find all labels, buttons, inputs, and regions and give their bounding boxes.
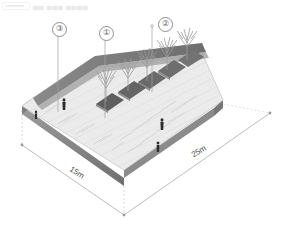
person-figure [160, 118, 163, 130]
person-figure [62, 98, 65, 110]
person-figure [157, 141, 160, 152]
callout-marker-1[interactable]: ① [99, 26, 114, 41]
callout-marker-3[interactable]: ③ [52, 22, 67, 37]
person-figure [35, 111, 37, 119]
callout-marker-2[interactable]: ② [158, 17, 173, 32]
site-plan-canvas: ▄▄ ▄▄▄ ▄▄▄▄ [0, 0, 284, 230]
axonometric-drawing [0, 0, 284, 230]
